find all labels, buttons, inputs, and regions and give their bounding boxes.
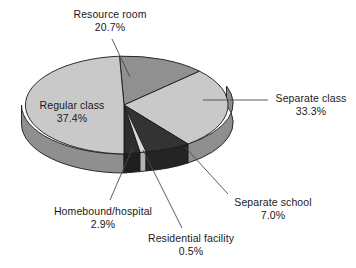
label-separate-class-value: 33.3%	[268, 105, 354, 118]
label-separate-school-name: Separate school	[234, 196, 311, 208]
label-homebound-hospital-value: 2.9%	[38, 218, 168, 231]
label-separate-school-value: 7.0%	[223, 209, 323, 222]
label-resource-room-value: 20.7%	[46, 21, 174, 34]
label-residential-facility-value: 0.5%	[134, 245, 248, 258]
label-separate-class: Separate class 33.3%	[268, 92, 354, 117]
label-residential-facility-name: Residential facility	[148, 232, 234, 244]
label-regular-class-name: Regular class	[40, 99, 105, 111]
label-residential-facility: Residential facility 0.5%	[134, 232, 248, 257]
label-homebound-hospital: Homebound/hospital 2.9%	[38, 205, 168, 230]
label-regular-class-value: 37.4%	[22, 112, 122, 125]
label-resource-room: Resource room 20.7%	[46, 8, 174, 33]
label-separate-school: Separate school 7.0%	[223, 196, 323, 221]
label-resource-room-name: Resource room	[73, 8, 146, 20]
pie-chart: Resource room 20.7% Separate class 33.3%…	[0, 0, 356, 268]
label-separate-class-name: Separate class	[276, 92, 347, 104]
label-homebound-hospital-name: Homebound/hospital	[54, 205, 152, 217]
label-regular-class: Regular class 37.4%	[22, 99, 122, 124]
